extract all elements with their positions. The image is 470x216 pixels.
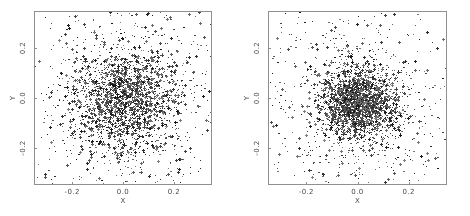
y-tick-label: -0.2	[19, 140, 28, 155]
y-tick-mark	[34, 98, 37, 99]
scatter-panel-left: -0.20.00.2-0.20.00.2XY	[0, 0, 235, 216]
scatter-points-left	[35, 12, 211, 184]
y-tick-label: 0.0	[19, 92, 28, 104]
y-tick-mark	[268, 98, 271, 99]
scatter-figure: -0.20.00.2-0.20.00.2XY -0.20.00.2-0.20.0…	[0, 0, 470, 216]
x-tick-label: -0.2	[299, 188, 314, 197]
y-tick-label: -0.2	[253, 140, 262, 155]
plot-frame-left	[34, 11, 212, 185]
y-tick-mark	[268, 48, 271, 49]
y-tick-mark	[34, 148, 37, 149]
x-axis-title: X	[355, 197, 360, 206]
x-tick-mark	[306, 182, 307, 185]
scatter-points-right	[269, 12, 446, 184]
x-tick-mark	[358, 182, 359, 185]
x-tick-label: 0.2	[168, 188, 180, 197]
x-tick-mark	[174, 182, 175, 185]
x-tick-label: 0.0	[117, 188, 129, 197]
y-tick-mark	[268, 148, 271, 149]
x-tick-mark	[72, 182, 73, 185]
plot-frame-right	[268, 11, 447, 185]
x-tick-label: 0.0	[351, 188, 363, 197]
y-tick-label: 0.2	[253, 42, 262, 54]
x-axis-title: X	[121, 197, 126, 206]
y-axis-title: Y	[9, 96, 18, 100]
y-tick-label: 0.0	[253, 92, 262, 104]
y-tick-mark	[34, 48, 37, 49]
x-tick-mark	[409, 182, 410, 185]
y-tick-label: 0.2	[19, 42, 28, 54]
scatter-panel-right: -0.20.00.2-0.20.00.2XY	[235, 0, 470, 216]
y-axis-title: Y	[243, 96, 252, 100]
x-tick-label: -0.2	[65, 188, 80, 197]
x-tick-mark	[123, 182, 124, 185]
x-tick-label: 0.2	[402, 188, 414, 197]
